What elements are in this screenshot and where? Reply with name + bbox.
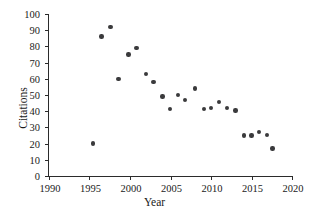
x-tick-label: 2020 — [283, 184, 304, 195]
data-point — [99, 34, 103, 38]
y-tick-label: 90 — [30, 26, 41, 37]
x-tick-label: 1990 — [40, 184, 61, 195]
data-point — [151, 80, 155, 84]
scatter-plot-figure: Citations 0102030405060708090100 1990199… — [0, 0, 309, 215]
x-tick-mark: 1990 — [49, 176, 50, 180]
data-point — [242, 133, 246, 137]
y-tick-label: 30 — [30, 123, 41, 134]
y-tick-label: 50 — [30, 91, 41, 102]
x-tick-mark: 1995 — [89, 176, 90, 180]
data-point — [160, 94, 164, 98]
y-tick-label: 40 — [30, 107, 41, 118]
data-point — [116, 77, 120, 81]
data-point — [144, 72, 148, 76]
x-tick-mark: 2010 — [211, 176, 212, 180]
data-point — [209, 106, 213, 110]
data-point — [108, 25, 112, 29]
x-tick-mark: 2000 — [130, 176, 131, 180]
x-tick-label: 2000 — [120, 184, 141, 195]
x-tick-label: 2005 — [161, 184, 182, 195]
data-point — [193, 86, 197, 90]
data-points-layer — [49, 14, 292, 176]
data-point — [134, 46, 138, 50]
data-point — [168, 107, 172, 111]
plot-area: 0102030405060708090100 19901995200020052… — [48, 14, 292, 177]
y-tick-label: 0 — [35, 172, 40, 183]
x-tick-mark: 2005 — [171, 176, 172, 180]
x-tick-mark: 2020 — [292, 176, 293, 180]
y-tick-label: 100 — [24, 10, 40, 21]
x-tick-label: 2010 — [201, 184, 222, 195]
y-axis-title: Citations — [17, 87, 29, 129]
data-point — [233, 108, 237, 112]
data-point — [176, 93, 180, 97]
y-tick-label: 20 — [30, 139, 41, 150]
data-point — [183, 98, 187, 102]
data-point — [91, 141, 95, 145]
x-tick-label: 1995 — [80, 184, 101, 195]
y-tick-label: 70 — [30, 58, 41, 69]
x-tick-mark: 2015 — [252, 176, 253, 180]
y-tick-label: 10 — [30, 156, 41, 167]
data-point — [217, 100, 221, 104]
data-point — [249, 133, 253, 137]
data-point — [257, 130, 261, 134]
data-point — [126, 52, 130, 56]
x-axis-title: Year — [0, 196, 309, 208]
data-point — [225, 106, 229, 110]
data-point — [202, 107, 206, 111]
y-tick-label: 80 — [30, 42, 41, 53]
data-point — [265, 133, 269, 137]
data-point — [270, 146, 274, 150]
y-tick-label: 60 — [30, 75, 41, 86]
x-tick-label: 2015 — [242, 184, 263, 195]
